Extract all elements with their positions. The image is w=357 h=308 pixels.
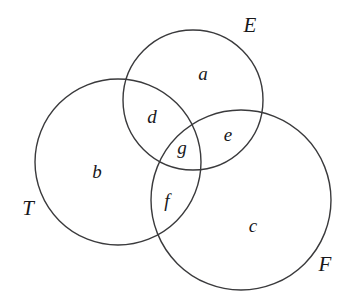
set-label-t: T (22, 198, 34, 219)
region-label-a: a (198, 64, 208, 83)
venn-diagram: E T F a d e g b f c (0, 0, 357, 308)
region-label-e: e (224, 125, 232, 144)
set-label-f: F (319, 254, 332, 275)
set-label-e: E (244, 15, 257, 36)
region-label-f: f (164, 191, 169, 210)
region-label-g: g (177, 138, 187, 157)
region-label-b: b (92, 162, 102, 181)
region-label-d: d (147, 107, 157, 126)
venn-circle-e (123, 30, 263, 170)
venn-circle-t (35, 79, 201, 245)
region-label-c: c (249, 216, 257, 235)
